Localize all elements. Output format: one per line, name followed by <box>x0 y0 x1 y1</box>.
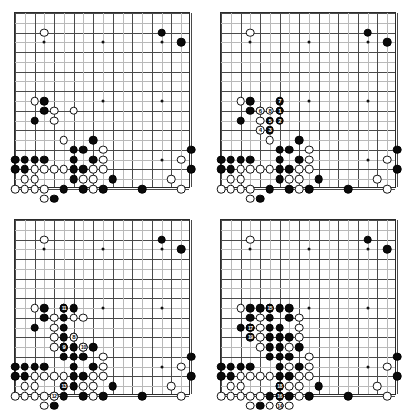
star-point <box>102 248 105 251</box>
grid-line-vertical <box>358 13 359 187</box>
white-stone <box>50 343 59 352</box>
black-stone <box>79 353 88 362</box>
white-stone <box>89 185 98 194</box>
white-stone <box>285 175 294 184</box>
grid-line-horizontal <box>15 130 189 131</box>
black-stone <box>20 155 29 164</box>
move-number-19: 19 <box>248 335 253 340</box>
move-number-18: 18 <box>277 384 282 389</box>
grid-line-horizontal <box>15 259 189 260</box>
black-stone <box>40 106 49 115</box>
grid-line-vertical <box>83 13 84 187</box>
black-stone <box>226 362 235 371</box>
black-stone <box>275 155 284 164</box>
white-stone <box>383 185 392 194</box>
grid-line-horizontal <box>15 298 189 299</box>
white-stone <box>266 372 275 381</box>
black-stone <box>393 372 402 381</box>
white-stone <box>236 392 245 401</box>
black-stone <box>383 245 392 254</box>
grid-line-vertical <box>54 220 55 394</box>
black-stone <box>20 362 29 371</box>
black-stone <box>177 38 186 47</box>
black-stone <box>285 313 294 322</box>
diagram-3-grid: 8910111213 <box>14 219 190 395</box>
white-stone <box>295 185 304 194</box>
move-number-2: 2 <box>278 118 281 124</box>
white-stone <box>40 235 49 244</box>
white-stone <box>40 28 49 37</box>
grid-line-horizontal <box>221 386 395 387</box>
star-point <box>366 41 369 44</box>
black-stone <box>69 382 78 391</box>
black-stone <box>30 323 39 332</box>
black-stone <box>69 362 78 371</box>
white-stone <box>295 333 304 342</box>
black-stone <box>99 392 108 401</box>
black-stone <box>314 382 323 391</box>
black-stone <box>226 155 235 164</box>
white-stone <box>236 372 245 381</box>
move-number-3: 3 <box>268 127 271 133</box>
black-stone <box>217 165 226 174</box>
white-stone <box>236 185 245 194</box>
star-point <box>249 41 252 44</box>
grid-line-horizontal <box>15 23 189 24</box>
white-stone <box>40 401 49 410</box>
star-point <box>43 41 46 44</box>
black-stone <box>60 185 69 194</box>
black-stone <box>226 372 235 381</box>
grid-line-vertical <box>338 13 339 187</box>
grid-line-vertical <box>142 220 143 394</box>
black-stone <box>266 323 275 332</box>
white-stone <box>89 382 98 391</box>
grid-line-vertical <box>289 13 290 187</box>
star-point <box>160 100 163 103</box>
white-stone <box>295 382 304 391</box>
black-stone <box>138 185 147 194</box>
black-stone <box>69 304 78 313</box>
white-stone <box>246 185 255 194</box>
white-stone <box>236 175 245 184</box>
black-stone <box>295 343 304 352</box>
white-stone <box>99 372 108 381</box>
black-stone <box>89 136 98 145</box>
grid-line-horizontal <box>15 13 189 14</box>
grid-line-horizontal <box>221 62 395 63</box>
white-stone <box>266 136 275 145</box>
star-point <box>366 307 369 310</box>
black-stone <box>256 194 265 203</box>
grid-line-vertical <box>397 220 398 394</box>
white-stone <box>50 106 59 115</box>
black-stone <box>79 146 88 155</box>
black-stone <box>217 362 226 371</box>
grid-line-horizontal <box>15 386 189 387</box>
black-stone <box>69 175 78 184</box>
black-stone <box>157 28 166 37</box>
black-stone <box>187 146 196 155</box>
black-stone <box>20 372 29 381</box>
black-stone <box>40 97 49 106</box>
white-stone <box>60 136 69 145</box>
grid-line-horizontal <box>15 337 189 338</box>
black-stone <box>344 185 353 194</box>
black-stone <box>11 372 20 381</box>
black-stone <box>40 313 49 322</box>
white-stone <box>256 392 265 401</box>
black-stone <box>275 362 284 371</box>
star-point <box>102 100 105 103</box>
white-stone <box>20 392 29 401</box>
grid-line-horizontal <box>15 121 189 122</box>
move-number-8: 8 <box>268 108 271 114</box>
white-stone <box>50 323 59 332</box>
black-stone <box>266 343 275 352</box>
white-stone <box>20 382 29 391</box>
black-stone <box>285 333 294 342</box>
white-stone <box>99 155 108 164</box>
star-point <box>366 365 369 368</box>
black-stone <box>246 313 255 322</box>
star-point <box>160 365 163 368</box>
grid-line-horizontal <box>221 72 395 73</box>
black-stone <box>236 362 245 371</box>
grid-line-vertical <box>152 220 153 394</box>
